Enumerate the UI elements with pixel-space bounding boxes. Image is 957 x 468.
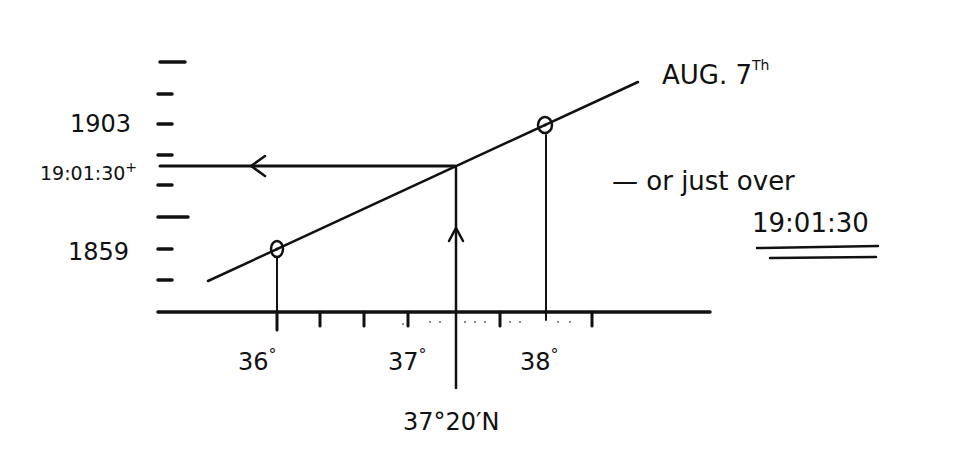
x-label-36: 36° bbox=[238, 345, 277, 376]
aug7-line bbox=[208, 82, 638, 281]
x-label-37: 37° bbox=[388, 345, 427, 376]
data-point-38 bbox=[538, 117, 552, 133]
data-point-36 bbox=[271, 241, 283, 257]
target-latitude-label: 37°20′N bbox=[403, 408, 499, 436]
y-axis-ticks bbox=[158, 62, 188, 280]
x-label-38: 38° bbox=[520, 345, 559, 376]
x-axis-dots bbox=[402, 321, 571, 325]
x-axis-ticks bbox=[277, 312, 592, 330]
note-underline-1 bbox=[757, 246, 878, 248]
y-label-1859: 1859 bbox=[68, 238, 129, 266]
interpolation-diagram: 1903 19:01:30+ 1859 36° 37° 38° 37°20′N … bbox=[0, 0, 957, 468]
y-label-result: 19:01:30+ bbox=[40, 159, 137, 184]
note-text: — or just over bbox=[612, 166, 795, 196]
y-label-1903: 1903 bbox=[70, 110, 131, 138]
line-label-aug7: AUG. 7Th bbox=[662, 57, 769, 90]
note-time: 19:01:30 bbox=[752, 208, 869, 238]
note-underline-2 bbox=[770, 257, 876, 258]
